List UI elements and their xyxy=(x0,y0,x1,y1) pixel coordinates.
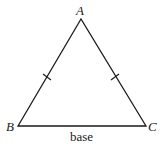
triangle-abc xyxy=(18,19,146,126)
vertex-label-c: C xyxy=(148,119,157,134)
triangle-svg: A B C base xyxy=(0,0,166,147)
vertex-label-b: B xyxy=(6,119,14,134)
tick-mark-ab xyxy=(43,74,51,80)
isosceles-triangle-diagram: A B C base xyxy=(0,0,166,147)
vertex-label-a: A xyxy=(75,3,84,18)
base-label: base xyxy=(70,129,93,144)
